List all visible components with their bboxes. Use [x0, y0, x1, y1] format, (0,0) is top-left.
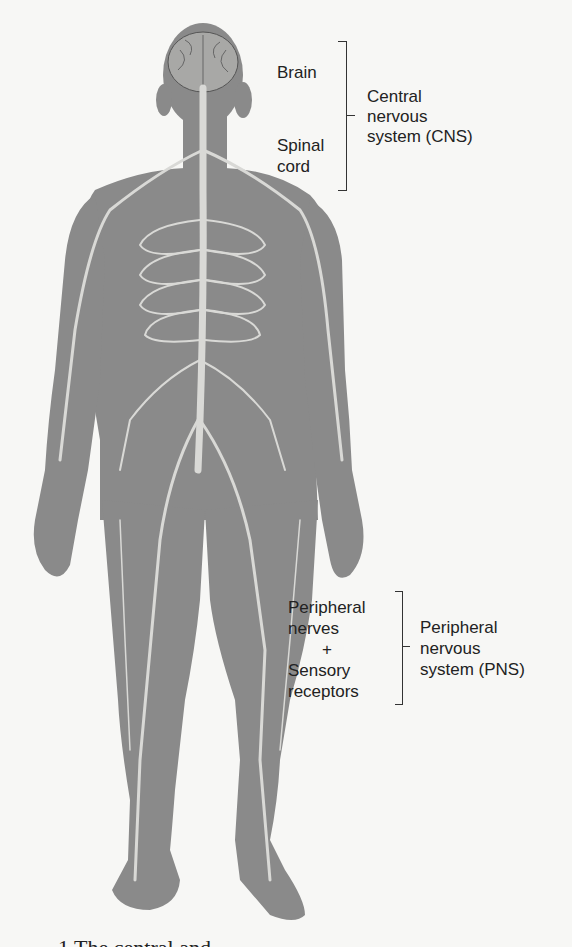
pns-label-line1: Peripheral [420, 617, 498, 638]
sensory-receptors-label-line1: Sensory [288, 660, 350, 681]
figure-caption: 1 The central and [58, 935, 211, 947]
peripheral-nerves-label-line2: nerves [288, 618, 339, 639]
sensory-receptors-label-line2: receptors [288, 681, 359, 702]
cns-label-line2: nervous [367, 106, 427, 127]
nervous-system-figure: Brain Spinal cord Central nervous system… [0, 0, 572, 947]
pns-bracket [395, 591, 403, 705]
peripheral-nerves-label-line1: Peripheral [288, 597, 366, 618]
pns-label-line3: system (PNS) [420, 659, 525, 680]
cns-label-line1: Central [367, 86, 422, 107]
spinal-cord-label-line1: Spinal [277, 135, 324, 156]
cns-bracket-tick [347, 115, 355, 116]
pns-bracket-tick [403, 646, 410, 647]
cns-label-line3: system (CNS) [367, 126, 473, 147]
plus-label: + [322, 639, 332, 660]
brain-label: Brain [277, 62, 317, 83]
spinal-cord-label-line2: cord [277, 156, 310, 177]
pns-label-line2: nervous [420, 638, 480, 659]
cns-bracket [338, 41, 347, 191]
